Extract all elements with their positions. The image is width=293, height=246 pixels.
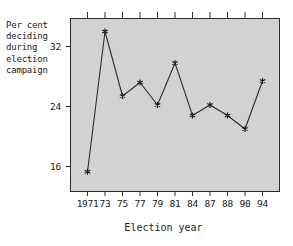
x-tick-label: 87: [205, 198, 216, 209]
x-tick-label: 88: [222, 198, 233, 209]
x-tick-label: 79: [152, 198, 163, 209]
data-point-marker: [120, 93, 125, 99]
chart-figure: Per cent deciding during election campai…: [0, 0, 293, 246]
y-tick-label: 16: [41, 161, 61, 172]
x-tick-label: 90: [240, 198, 251, 209]
x-tick-label: 77: [135, 198, 146, 209]
chart-canvas: [0, 0, 293, 246]
x-tick-label: 1971: [77, 198, 99, 209]
x-tick-label: 81: [170, 198, 181, 209]
data-point-marker: [102, 28, 107, 34]
x-tick-label: 75: [117, 198, 128, 209]
data-point-marker: [260, 78, 265, 84]
data-point-marker: [85, 169, 90, 175]
data-point-marker: [190, 112, 195, 118]
data-point-marker: [207, 102, 212, 108]
data-point-markers: [85, 28, 265, 174]
data-point-marker: [172, 60, 177, 66]
data-point-marker: [242, 126, 247, 132]
data-point-marker: [225, 112, 230, 118]
y-tick-label: 24: [41, 101, 61, 112]
x-tick-label: 84: [187, 198, 198, 209]
y-tick-label: 32: [41, 41, 61, 52]
x-tick-label: 73: [100, 198, 111, 209]
x-tick-label: 94: [257, 198, 268, 209]
data-series-line: [88, 32, 263, 172]
